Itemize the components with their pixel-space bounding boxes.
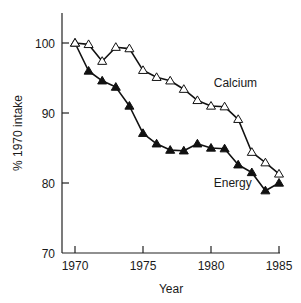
open-triangle-marker-icon xyxy=(179,85,188,93)
y-tick-label: 80 xyxy=(42,177,56,191)
series-lines xyxy=(75,43,279,191)
filled-triangle-marker-icon xyxy=(247,168,256,176)
y-tick-label: 90 xyxy=(42,107,56,121)
x-tick-label: 1970 xyxy=(62,259,89,273)
filled-triangle-marker-icon xyxy=(84,67,93,75)
line-chart: 708090100 1970197519801985 CalciumEnergy… xyxy=(0,0,301,303)
open-triangle-marker-icon xyxy=(111,43,120,51)
filled-triangle-marker-icon xyxy=(275,179,284,187)
filled-triangle-marker-icon xyxy=(139,129,148,137)
open-triangle-marker-icon xyxy=(71,39,80,47)
series-markers xyxy=(71,39,284,194)
open-triangle-marker-icon xyxy=(152,73,161,81)
energy-series-label: Energy xyxy=(214,176,252,190)
y-axis-label: % 1970 intake xyxy=(11,95,25,171)
x-tick-label: 1975 xyxy=(130,259,157,273)
axes xyxy=(62,13,280,253)
filled-triangle-marker-icon xyxy=(193,139,202,147)
calcium-series-label: Calcium xyxy=(214,76,257,90)
open-triangle-marker-icon xyxy=(139,66,148,74)
y-ticks: 708090100 xyxy=(35,37,69,261)
energy-line xyxy=(75,43,279,191)
x-axis-label: Year xyxy=(159,282,183,296)
open-triangle-marker-icon xyxy=(247,148,256,156)
y-tick-label: 70 xyxy=(42,247,56,261)
x-ticks: 1970197519801985 xyxy=(62,246,293,273)
x-tick-label: 1985 xyxy=(266,259,293,273)
y-tick-label: 100 xyxy=(35,37,55,51)
filled-triangle-marker-icon xyxy=(98,76,107,84)
x-tick-label: 1980 xyxy=(198,259,225,273)
